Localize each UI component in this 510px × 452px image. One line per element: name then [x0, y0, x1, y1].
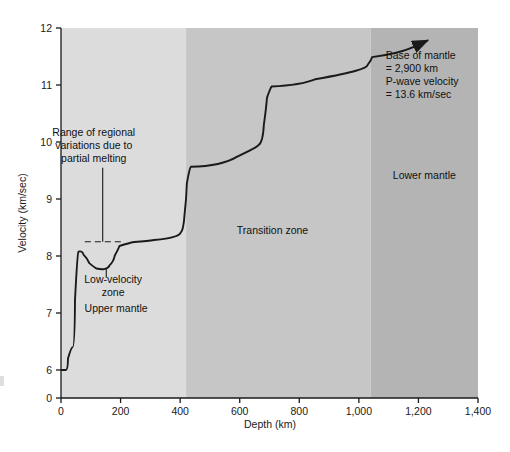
band-transition-zone — [186, 28, 371, 398]
band-upper-mantle — [61, 28, 186, 398]
y-tick-label: 0 — [46, 392, 52, 404]
lower-mantle-label: Lower mantle — [393, 169, 456, 181]
base-of-mantle-annotation: Base of mantle= 2,900 kmP-wave velocity=… — [386, 49, 460, 100]
chart-svg: 06789101112 02004006008001,0001,2001,400… — [0, 0, 510, 452]
scan-edge-artifact — [0, 376, 4, 386]
x-tick-label: 800 — [291, 405, 309, 417]
y-tick-label: 6 — [46, 364, 52, 376]
x-tick-label: 200 — [112, 405, 130, 417]
transition-zone-label: Transition zone — [237, 224, 309, 236]
x-axis-ticks: 02004006008001,0001,2001,400 — [58, 398, 491, 417]
y-tick-label: 12 — [40, 22, 52, 34]
upper-mantle-label: Upper mantle — [85, 302, 148, 314]
y-axis-ticks: 06789101112 — [40, 22, 61, 404]
seismic-velocity-chart: 06789101112 02004006008001,0001,2001,400… — [0, 0, 510, 452]
y-tick-label: 7 — [46, 307, 52, 319]
y-axis-title: Velocity (km/sec) — [16, 173, 28, 252]
y-tick-label: 9 — [46, 193, 52, 205]
y-tick-label: 10 — [40, 136, 52, 148]
x-tick-label: 1,400 — [465, 405, 491, 417]
regional-variations-annotation: Range of regionalvariations due topartia… — [52, 126, 135, 164]
x-tick-label: 400 — [171, 405, 189, 417]
y-tick-label: 11 — [41, 79, 52, 91]
x-tick-label: 1,000 — [346, 405, 372, 417]
x-axis-title: Depth (km) — [244, 418, 296, 430]
x-tick-label: 1,200 — [405, 405, 431, 417]
y-tick-label: 8 — [46, 250, 52, 262]
x-tick-label: 0 — [58, 405, 64, 417]
x-tick-label: 600 — [231, 405, 249, 417]
